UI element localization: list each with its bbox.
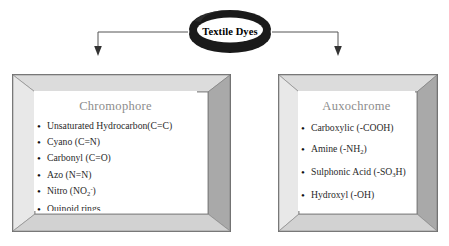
list-item: • Hydroxyl (-OH) xyxy=(300,190,415,200)
bullet-icon: • xyxy=(37,186,41,197)
connector-left xyxy=(94,32,188,56)
list-item: • Unsaturated Hydrocarbon(C=C) xyxy=(36,121,197,131)
list-item-label: Azo (N=N) xyxy=(47,169,91,180)
bullet-icon: • xyxy=(37,137,41,148)
list-item-label: Carbonyl (C=O) xyxy=(47,152,111,163)
bullet-icon: • xyxy=(301,144,305,155)
bullet-icon: • xyxy=(37,204,41,211)
list-item: • Sulphonic Acid (-SO3H) xyxy=(300,167,415,178)
bullet-icon: • xyxy=(301,123,305,134)
list-item: • Quinoid rings xyxy=(36,204,197,211)
auxochrome-item-list: • Carboxylic (-COOH) • Amine (-NH2) • Su… xyxy=(298,123,415,199)
list-item-label: Cyano (C=N) xyxy=(47,136,100,147)
bullet-icon: • xyxy=(37,153,41,164)
list-item: • Carbonyl (C=O) xyxy=(36,153,197,163)
list-item-label: Hydroxyl (-OH) xyxy=(311,189,374,200)
panel-chromophore-content: Chromophore • Unsaturated Hydrocarbon(C=… xyxy=(34,91,197,211)
bullet-icon: • xyxy=(301,167,305,178)
connector-right xyxy=(272,32,342,56)
panel-auxochrome-heading: Auxochrome xyxy=(298,99,415,114)
list-item-label: Carboxylic (-COOH) xyxy=(311,122,394,133)
list-item-label: Quinoid rings xyxy=(47,203,101,211)
panel-chromophore: Chromophore • Unsaturated Hydrocarbon(C=… xyxy=(12,74,231,232)
list-item-label: Unsaturated Hydrocarbon(C=C) xyxy=(47,120,172,131)
list-item-label: Sulphonic Acid (-SO3H) xyxy=(311,166,406,177)
bullet-icon: • xyxy=(301,190,305,201)
list-item: • Azo (N=N) xyxy=(36,170,197,180)
list-item-label: Nitro (NO2-) xyxy=(47,185,96,196)
panel-chromophore-heading: Chromophore xyxy=(34,99,197,114)
chromophore-item-list: • Unsaturated Hydrocarbon(C=C) • Cyano (… xyxy=(34,121,197,211)
panel-auxochrome-content: Auxochrome • Carboxylic (-COOH) • Amine … xyxy=(298,91,415,211)
list-item: • Amine (-NH2) xyxy=(300,144,415,155)
panel-auxochrome: Auxochrome • Carboxylic (-COOH) • Amine … xyxy=(278,74,438,232)
list-item-label: Amine (-NH2) xyxy=(311,143,367,154)
diagram-title: Textile Dyes xyxy=(188,26,272,37)
bullet-icon: • xyxy=(37,170,41,181)
list-item: • Cyano (C=N) xyxy=(36,137,197,147)
list-item: • Carboxylic (-COOH) xyxy=(300,123,415,133)
diagram-canvas: Textile Dyes Chromophore • Unsaturated H… xyxy=(0,0,449,246)
bullet-icon: • xyxy=(37,121,41,132)
list-item: • Nitro (NO2-) xyxy=(36,186,197,197)
